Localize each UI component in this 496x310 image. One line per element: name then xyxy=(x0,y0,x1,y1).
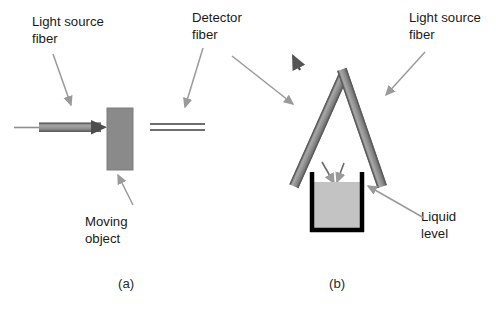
leader-arrow-panel-a-light-source xyxy=(53,54,71,105)
panel-b-light-source-fiber xyxy=(337,68,387,188)
diagram-graphics xyxy=(0,0,496,310)
leader-arrow-panel-b-liquid-level xyxy=(368,186,424,218)
panel-a-detector-fiber xyxy=(150,124,205,130)
leader-arrow-panel-a-moving-object xyxy=(118,175,133,205)
leader-arrow-panel-b-light-source xyxy=(386,52,425,95)
leader-arrow-panel-b-detector xyxy=(232,56,293,104)
figure-canvas: Light sourcefiber Detectorfiber Light so… xyxy=(0,0,496,310)
panel-a-moving-object xyxy=(107,108,133,170)
panel-b-liquid xyxy=(314,182,360,230)
panel-a-light-source-fiber xyxy=(14,123,104,133)
leader-arrow-panel-a-detector xyxy=(185,48,203,107)
